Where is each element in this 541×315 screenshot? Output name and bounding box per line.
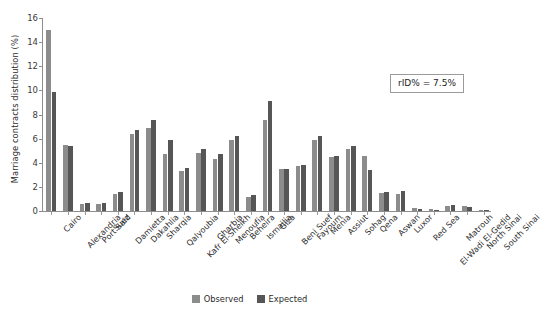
chart-legend: Observed Expected <box>0 294 499 304</box>
bar-expected <box>151 120 156 211</box>
bar-observed <box>396 194 401 211</box>
bar-observed <box>80 204 85 211</box>
bar-expected <box>68 146 73 211</box>
legend-label-observed: Observed <box>204 294 244 304</box>
bar-expected <box>85 203 90 211</box>
legend-label-expected: Expected <box>269 294 308 304</box>
bar-observed <box>445 206 450 211</box>
bar-observed <box>346 149 351 211</box>
y-tick-label: 10 <box>27 85 38 95</box>
y-axis-title: Marriage contracts distribution (%) <box>10 9 20 209</box>
bar-expected <box>401 191 406 212</box>
bar-expected <box>102 203 107 211</box>
bar-observed <box>379 193 384 211</box>
bar-observed <box>63 145 68 211</box>
bar-expected <box>284 169 289 211</box>
x-tick-label: Red Sea <box>431 212 462 243</box>
bar-expected <box>384 192 389 211</box>
y-tick-label: 2 <box>33 182 38 192</box>
bar-observed <box>462 206 467 211</box>
y-tick-mark <box>39 66 42 67</box>
bar-observed <box>213 159 218 211</box>
bar-expected <box>351 146 356 211</box>
bar-expected <box>118 192 123 211</box>
bar-observed <box>412 208 417 211</box>
legend-swatch-observed <box>192 295 200 303</box>
y-tick-label: 14 <box>27 37 38 47</box>
y-tick-mark <box>39 90 42 91</box>
y-tick-label: 16 <box>27 13 38 23</box>
y-tick-mark <box>39 163 42 164</box>
y-tick-mark <box>39 115 42 116</box>
bar-observed <box>113 194 118 211</box>
bar-observed <box>312 140 317 211</box>
bar-expected <box>135 130 140 211</box>
bar-observed <box>479 210 484 211</box>
y-tick-mark <box>39 18 42 19</box>
bar-observed <box>279 169 284 211</box>
bar-expected <box>268 101 273 211</box>
bar-observed <box>130 134 135 211</box>
legend-swatch-expected <box>257 295 265 303</box>
bar-expected <box>434 210 439 211</box>
bar-expected <box>251 195 256 211</box>
bar-observed <box>96 204 101 211</box>
y-tick-label: 8 <box>33 110 38 120</box>
bar-expected <box>418 209 423 211</box>
bar-expected <box>52 92 57 211</box>
bar-observed <box>429 209 434 211</box>
rid-annotation: rID% = 7.5% <box>390 74 464 93</box>
bar-expected <box>368 170 373 211</box>
bar-observed <box>196 153 201 211</box>
bar-expected <box>334 156 339 211</box>
y-tick-mark <box>39 42 42 43</box>
legend-item-observed: Observed <box>192 294 244 304</box>
bar-observed <box>179 171 184 211</box>
y-tick-mark <box>39 139 42 140</box>
plot-area: 0246810121416 <box>42 18 491 212</box>
y-tick-label: 0 <box>33 206 38 216</box>
bar-expected <box>168 140 173 211</box>
bar-expected <box>185 168 190 211</box>
bar-expected <box>235 136 240 211</box>
bar-observed <box>263 120 268 211</box>
bar-expected <box>467 207 472 211</box>
legend-item-expected: Expected <box>257 294 308 304</box>
bar-observed <box>146 128 151 211</box>
y-tick-label: 4 <box>33 158 38 168</box>
bar-observed <box>163 154 168 211</box>
bar-observed <box>246 197 251 211</box>
bar-observed <box>296 166 301 211</box>
y-tick-label: 12 <box>27 61 38 71</box>
y-axis-line <box>42 18 43 212</box>
bar-expected <box>451 205 456 211</box>
x-axis-labels: CairoAlexandriaPort SaidSuezDamiettaDaka… <box>42 212 491 292</box>
bar-expected <box>484 210 489 211</box>
x-tick-label: Cairo <box>62 212 84 234</box>
bar-observed <box>362 156 367 211</box>
y-tick-mark <box>39 187 42 188</box>
bar-expected <box>301 165 306 211</box>
bar-expected <box>218 154 223 211</box>
bar-expected <box>201 149 206 211</box>
bar-observed <box>46 30 51 211</box>
bar-observed <box>229 140 234 211</box>
y-tick-label: 6 <box>33 134 38 144</box>
bar-expected <box>318 136 323 211</box>
bar-observed <box>329 157 334 211</box>
